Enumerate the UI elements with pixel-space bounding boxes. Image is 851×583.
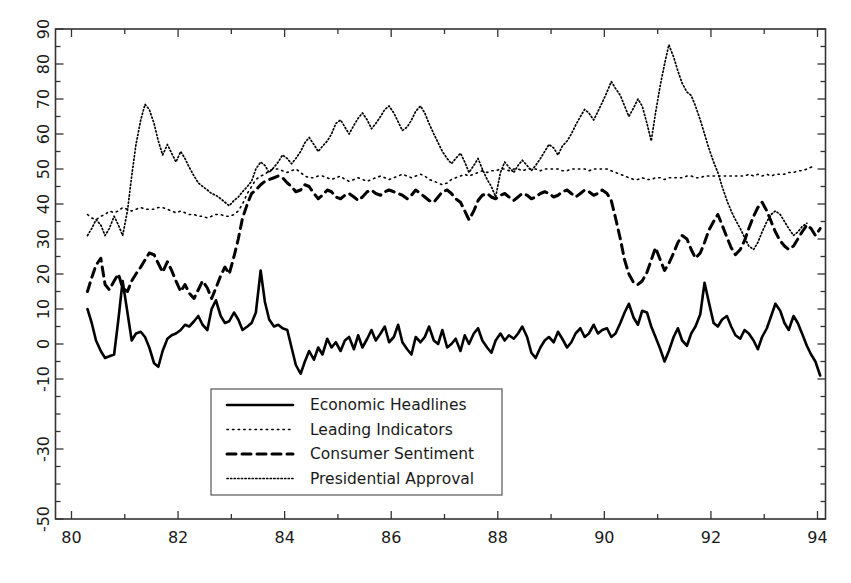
- y-tick-label-0: 0: [34, 339, 53, 349]
- series-line-presidential-approval: [87, 45, 806, 250]
- data-series-layer: [87, 45, 820, 376]
- x-tick-label-84: 84: [274, 528, 294, 547]
- x-tick-label-82: 82: [168, 528, 188, 547]
- x-tick-label-88: 88: [488, 528, 508, 547]
- y-tick-label-90: 90: [34, 19, 53, 39]
- legend-label-presidential-approval: Presidential Approval: [310, 470, 474, 488]
- y-tick-label--30: -30: [34, 436, 53, 462]
- y-tick-label-50: 50: [34, 159, 53, 179]
- y-tick-label-30: 30: [34, 229, 53, 249]
- legend-label-consumer-sentiment: Consumer Sentiment: [310, 445, 474, 463]
- y-tick-label-40: 40: [34, 194, 53, 214]
- y-axis-tick-labels: -50-30-100102030405060708090: [34, 19, 53, 532]
- x-tick-label-90: 90: [594, 528, 614, 547]
- y-tick-label-80: 80: [34, 54, 53, 74]
- x-tick-label-92: 92: [701, 528, 721, 547]
- series-line-economic-headlines: [87, 271, 820, 376]
- x-axis-tick-labels: 8082848688909294: [61, 528, 827, 547]
- x-tick-label-94: 94: [807, 528, 827, 547]
- chart-legend: Economic HeadlinesLeading IndicatorsCons…: [211, 389, 502, 495]
- series-line-consumer-sentiment: [87, 176, 820, 299]
- y-tick-label--10: -10: [34, 366, 53, 392]
- y-tick-label-20: 20: [34, 264, 53, 284]
- x-tick-label-80: 80: [61, 528, 81, 547]
- y-tick-label-60: 60: [34, 124, 53, 144]
- y-tick-label-10: 10: [34, 299, 53, 319]
- chart-canvas: 8082848688909294 -50-30-1001020304050607…: [0, 0, 851, 583]
- x-tick-label-86: 86: [381, 528, 401, 547]
- legend-label-economic-headlines: Economic Headlines: [310, 396, 467, 414]
- legend-label-leading-indicators: Leading Indicators: [310, 421, 453, 439]
- y-tick-label-70: 70: [34, 89, 53, 109]
- chart-figure: 8082848688909294 -50-30-1001020304050607…: [0, 0, 851, 583]
- y-tick-label--50: -50: [34, 506, 53, 532]
